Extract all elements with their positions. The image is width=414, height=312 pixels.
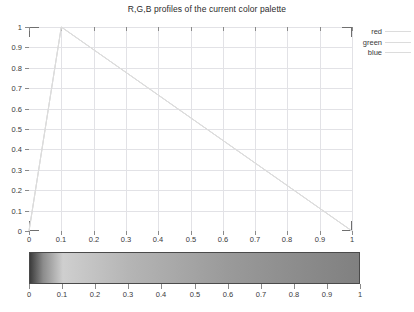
legend-item-green[interactable]: green [358, 38, 414, 47]
colorbar-tick [360, 284, 361, 289]
chart-page: R,G,B profiles of the current color pale… [0, 0, 414, 312]
x-axis-labels: 00.10.20.30.40.50.60.70.80.91 [29, 233, 352, 245]
legend-label: blue [358, 48, 382, 57]
gridline-vertical [352, 27, 353, 231]
legend-swatch-red [385, 31, 411, 32]
x-tick-label: 0 [27, 235, 31, 244]
series-line-blue [29, 27, 352, 231]
series-line-green [29, 27, 352, 231]
x-tick-label: 0.1 [56, 235, 66, 244]
x-tick-label: 0.6 [218, 235, 228, 244]
series-line-red [29, 27, 352, 231]
series-lines [29, 27, 352, 231]
colorbar-tick-label: 1 [358, 290, 362, 299]
y-tick-label: 0.3 [12, 166, 22, 175]
x-tick-label: 0.7 [250, 235, 260, 244]
y-tick-label: 0 [18, 227, 22, 236]
x-tick-label: 0.9 [315, 235, 325, 244]
colorbar-tick-label: 0.5 [190, 290, 200, 299]
colorbar-tick-label: 0.7 [256, 290, 266, 299]
legend-label: red [358, 27, 382, 36]
colorbar-tick [29, 284, 30, 289]
y-tick-label: 0.9 [12, 43, 22, 52]
colorbar-tick-label: 0.6 [223, 290, 233, 299]
colorbar-tick-label: 0.4 [156, 290, 166, 299]
colorbar-tick [228, 284, 229, 289]
colorbar [29, 252, 360, 284]
page-title: R,G,B profiles of the current color pale… [0, 4, 414, 14]
colorbar-tick-label: 0.3 [123, 290, 133, 299]
y-tick-label: 0.7 [12, 84, 22, 93]
y-tick-label: 0.1 [12, 207, 22, 216]
colorbar-tick-label: 0.2 [90, 290, 100, 299]
y-tick-label: 0.4 [12, 145, 22, 154]
colorbar-tick-label: 0 [27, 290, 31, 299]
legend-label: green [358, 38, 382, 47]
colorbar-labels: 00.10.20.30.40.50.60.70.80.91 [29, 290, 360, 304]
colorbar-tick [161, 284, 162, 289]
x-tick-label: 0.5 [186, 235, 196, 244]
legend: redgreenblue [358, 27, 414, 59]
y-axis-labels: 00.10.20.30.40.50.60.70.80.91 [0, 27, 26, 231]
legend-swatch-green [385, 42, 411, 43]
colorbar-tick-label: 0.8 [289, 290, 299, 299]
x-tick-top [352, 27, 353, 31]
x-tick-label: 1 [350, 235, 354, 244]
colorbar-tick [62, 284, 63, 289]
colorbar-tick [95, 284, 96, 289]
colorbar-tick [327, 284, 328, 289]
x-tick-label: 0.8 [282, 235, 292, 244]
y-tick-label: 0.5 [12, 125, 22, 134]
y-tick-label: 0.8 [12, 64, 22, 73]
plot-area [29, 27, 352, 231]
colorbar-tick [261, 284, 262, 289]
colorbar-tick-label: 0.9 [322, 290, 332, 299]
colorbar-tick-label: 0.1 [57, 290, 67, 299]
legend-swatch-blue [385, 52, 411, 53]
y-tick-label: 0.6 [12, 105, 22, 114]
colorbar-tick [195, 284, 196, 289]
legend-item-blue[interactable]: blue [358, 48, 414, 57]
x-tick-label: 0.4 [153, 235, 163, 244]
y-tick-label: 1 [18, 23, 22, 32]
x-tick-label: 0.3 [121, 235, 131, 244]
colorbar-gradient [29, 252, 360, 284]
colorbar-tick [128, 284, 129, 289]
x-tick-label: 0.2 [89, 235, 99, 244]
y-tick-label: 0.2 [12, 186, 22, 195]
colorbar-tick [294, 284, 295, 289]
legend-item-red[interactable]: red [358, 27, 414, 36]
